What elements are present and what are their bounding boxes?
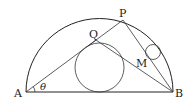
line-QB [96, 40, 173, 92]
label-theta: θ [40, 81, 46, 92]
semicircle-arc [26, 19, 173, 92]
label-Q: Q [89, 28, 98, 41]
label-A: A [13, 87, 23, 100]
label-B: B [175, 87, 183, 100]
inscribed-circle [75, 43, 124, 92]
angle-theta-arc [33, 87, 35, 92]
geometry-diagram: A B P Q M θ [0, 0, 192, 107]
line-PB [123, 20, 173, 92]
label-M: M [136, 57, 147, 70]
small-circle [146, 45, 161, 60]
label-P: P [119, 7, 127, 20]
